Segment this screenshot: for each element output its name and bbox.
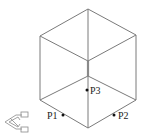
ucs-axis-icon xyxy=(5,112,28,132)
point-p1-marker xyxy=(62,114,65,117)
point-p3-label: P3 xyxy=(90,85,101,96)
point-p2-marker xyxy=(113,114,116,117)
edge-lowerleft-front xyxy=(40,76,88,100)
point-p2-label: P2 xyxy=(118,110,129,121)
edge-bottom-right xyxy=(88,100,136,128)
edge-top-left xyxy=(40,9,88,36)
point-p1-label: P1 xyxy=(47,110,58,121)
edge-left-inner xyxy=(40,36,88,61)
point-p2: P2 xyxy=(113,110,129,121)
edge-top-right xyxy=(88,9,136,35)
point-p3-marker xyxy=(86,89,89,92)
edge-right-inner xyxy=(88,35,136,61)
point-p1: P1 xyxy=(47,110,65,121)
cube-diagram: P1 P2 P3 xyxy=(0,0,142,140)
